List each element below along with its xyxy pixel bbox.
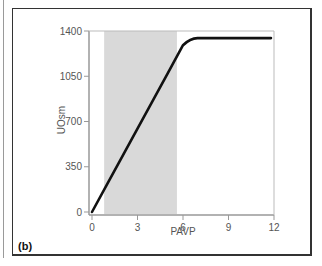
- y-tick-label: 1400: [60, 26, 83, 37]
- line-chart: 036912035070010501400 UOsm PAVP (b): [0, 0, 322, 266]
- x-tick-label: 0: [89, 222, 95, 233]
- y-tick-label: 350: [65, 161, 82, 172]
- x-tick-label: 9: [226, 222, 232, 233]
- x-tick-label: 12: [268, 222, 280, 233]
- y-tick-label: 700: [65, 116, 82, 127]
- y-tick-label: 1050: [60, 71, 83, 82]
- x-tick-label: 3: [135, 222, 141, 233]
- y-tick-label: 0: [76, 207, 82, 218]
- y-axis-title: UOsm: [56, 106, 67, 134]
- panel-label: (b): [18, 240, 32, 252]
- x-axis-title: PAVP: [170, 226, 196, 237]
